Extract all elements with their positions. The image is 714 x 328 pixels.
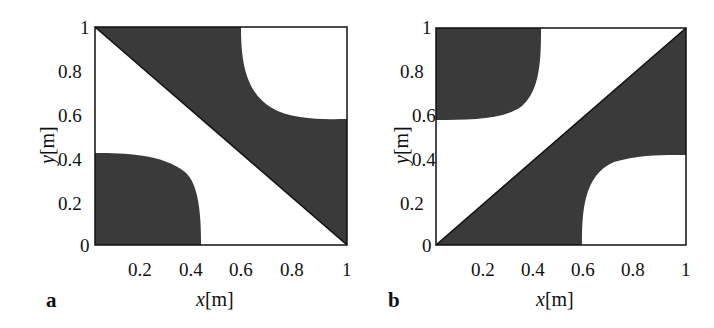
x-tick: 1 xyxy=(681,260,691,279)
y-tick: 0 xyxy=(422,236,432,255)
y-axis-label: y[m] xyxy=(390,126,413,164)
panel-label-b: b xyxy=(388,288,400,313)
y-tick: 0.8 xyxy=(400,62,424,81)
y-tick: 0.4 xyxy=(412,150,436,169)
x-tick: 0.6 xyxy=(571,260,595,279)
y-tick: 0.2 xyxy=(400,194,424,213)
y-tick: 1 xyxy=(422,18,432,37)
plot-area-b xyxy=(0,0,714,328)
x-tick: 0.2 xyxy=(471,260,495,279)
y-tick: 0.6 xyxy=(412,106,436,125)
panel-b: 1 0.8 0.6 0.4 0.2 0 0.2 0.4 0.6 0.8 1 y[… xyxy=(0,0,714,328)
shaded-region-upper-left xyxy=(436,28,541,120)
x-tick: 0.4 xyxy=(521,260,545,279)
x-axis-label: x[m] xyxy=(536,288,574,311)
x-tick: 0.8 xyxy=(621,260,645,279)
